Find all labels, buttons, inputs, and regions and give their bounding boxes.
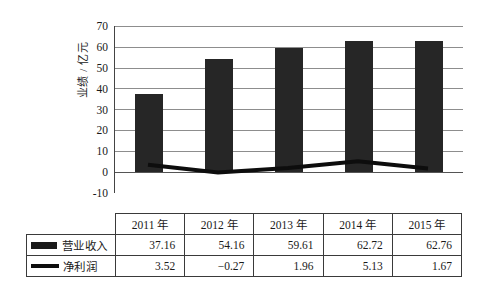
net-profit-2015: 1.67 (392, 256, 461, 277)
net-profit-2011: 3.52 (115, 256, 184, 277)
net-profit-2013: 1.96 (254, 256, 323, 277)
net-profit-2012: −0.27 (185, 256, 254, 277)
y-tick-label-10: 10 (72, 146, 108, 157)
table-header-2014: 2014 年 (323, 214, 392, 235)
net-profit-2014: 5.13 (323, 256, 392, 277)
line-swatch-icon (31, 264, 59, 268)
table-header-2011: 2011 年 (115, 214, 184, 235)
table-row: 营业收入 37.16 54.16 59.61 62.72 62.76 (27, 235, 462, 256)
y-tick-label-40: 40 (72, 84, 108, 95)
revenue-2011: 37.16 (115, 235, 184, 256)
table-header-2015: 2015 年 (392, 214, 461, 235)
y-tick-label-0: 0 (72, 167, 108, 178)
bar-swatch-icon (31, 242, 57, 249)
net-profit-polyline (148, 161, 428, 172)
y-tick-label-70: 70 (72, 21, 108, 32)
y-tick-label-20: 20 (72, 125, 108, 136)
revenue-2012: 54.16 (185, 235, 254, 256)
y-tick-label-60: 60 (72, 42, 108, 53)
table-row: 净利润 3.52 −0.27 1.96 5.13 1.67 (27, 256, 462, 277)
table-header-2013: 2013 年 (254, 214, 323, 235)
y-tick-label-neg10: -10 (72, 188, 108, 199)
table-header-row: 2011 年 2012 年 2013 年 2014 年 2015 年 (27, 214, 462, 235)
revenue-2015: 62.76 (392, 235, 461, 256)
data-table: 2011 年 2012 年 2013 年 2014 年 2015 年 营业收入 … (26, 213, 462, 277)
net-profit-line (114, 26, 462, 193)
legend-revenue: 营业收入 (27, 235, 116, 256)
legend-net-profit: 净利润 (27, 256, 116, 277)
revenue-2013: 59.61 (254, 235, 323, 256)
series-label-net-profit: 净利润 (63, 261, 97, 273)
y-tick-label-50: 50 (72, 63, 108, 74)
series-label-revenue: 营业收入 (62, 240, 107, 252)
chart-figure: 业绩 / 亿元 70 60 50 40 30 20 10 0 -10 2011 … (0, 0, 485, 291)
y-tick-label-30: 30 (72, 105, 108, 116)
revenue-2014: 62.72 (323, 235, 392, 256)
table-header-2012: 2012 年 (185, 214, 254, 235)
table-corner-cell (27, 214, 116, 235)
